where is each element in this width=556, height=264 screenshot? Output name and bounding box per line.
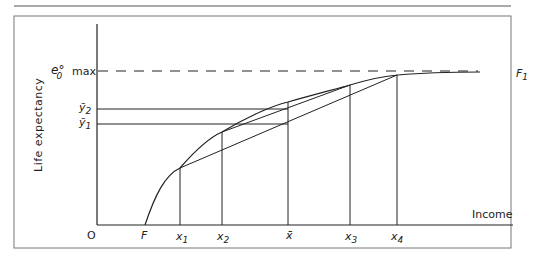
x-tick-x3: x3: [345, 231, 357, 242]
F1-label: F1: [516, 68, 528, 79]
y-axis-label: Life expectancy: [32, 78, 45, 172]
x-tick-x1: x1: [176, 231, 188, 242]
figure-frame: [14, 16, 511, 248]
e0-label: e°0: [51, 64, 70, 76]
diagram-canvas: [0, 0, 556, 264]
origin-label: O: [87, 230, 96, 241]
y2-label: ȳ2: [79, 102, 91, 113]
curve-F-F1: [145, 72, 480, 225]
x-tick-x2: x2: [217, 231, 229, 242]
y1-label: ȳ1: [79, 117, 91, 128]
x-tick-xbar: x̄: [286, 230, 293, 241]
x-axis-label: Income: [472, 209, 512, 220]
x-tick-x4: x4: [391, 231, 403, 242]
max-label: max: [72, 66, 96, 77]
F-label: F: [141, 230, 147, 241]
